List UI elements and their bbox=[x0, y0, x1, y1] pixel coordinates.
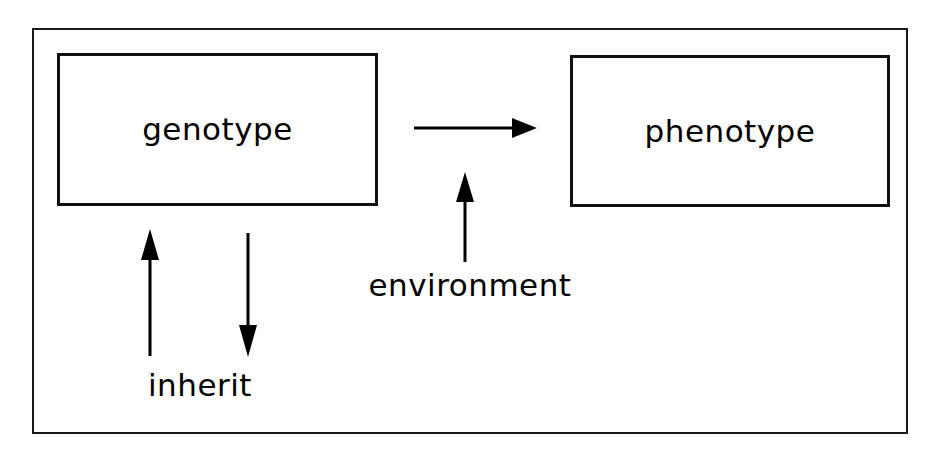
phenotype-node: phenotype bbox=[570, 55, 890, 207]
genotype-node: genotype bbox=[57, 53, 378, 206]
inherit-label: inherit bbox=[90, 370, 310, 401]
phenotype-node-label: phenotype bbox=[645, 116, 816, 147]
diagram-canvas: genotype phenotype environment inherit bbox=[0, 0, 936, 450]
genotype-node-label: genotype bbox=[142, 114, 293, 145]
environment-label: environment bbox=[340, 270, 600, 301]
